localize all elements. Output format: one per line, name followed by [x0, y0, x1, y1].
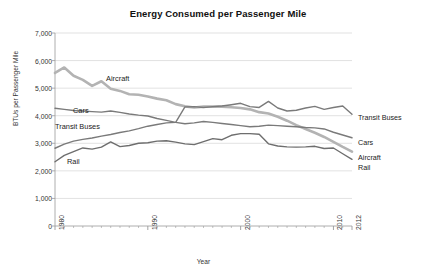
series-end-label-aircraft: Aircraft [358, 153, 381, 162]
axis-ticks [52, 33, 352, 230]
series-annotation-transit-buses: Transit Buses [55, 122, 100, 131]
series-end-label-cars: Cars [358, 138, 373, 147]
series-line-aircraft [55, 67, 352, 151]
series-line-rail [55, 134, 352, 162]
series-annotation-aircraft: Aircraft [106, 74, 129, 83]
series-annotation-cars: Cars [73, 106, 89, 115]
series-end-label-rail: Rail [358, 163, 370, 172]
series-annotation-rail: Rail [67, 157, 80, 166]
series-end-label-transit-buses: Transit Buses [358, 113, 402, 122]
gridlines [55, 33, 352, 198]
chart-container: Energy Consumed per Passenger Mile BTUs … [0, 0, 436, 279]
series-lines [55, 67, 352, 161]
